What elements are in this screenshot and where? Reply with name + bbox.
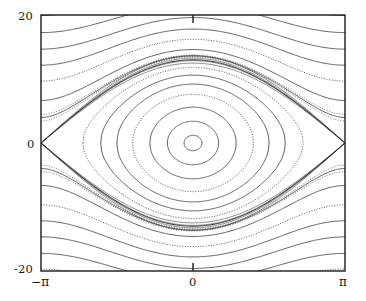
ytick-label-bottom: -20 [14, 262, 33, 276]
ytick-label-top: 20 [18, 9, 33, 23]
xtick-label-minus-pi: −π [31, 275, 49, 289]
xtick-label-zero: 0 [189, 275, 197, 289]
phase-portrait-figure: 20 0 -20 −π 0 π [0, 0, 366, 301]
ytick-label-zero: 0 [27, 137, 35, 151]
plot-canvas [0, 0, 366, 301]
xtick-label-pi: π [339, 275, 347, 289]
